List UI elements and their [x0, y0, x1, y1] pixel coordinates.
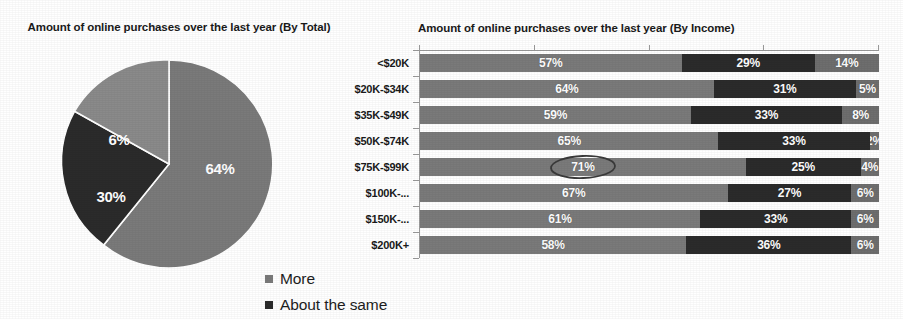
- bar-segment-about-the-same[interactable]: 33%: [691, 106, 842, 124]
- bar-row[interactable]: $200K+58%36%6%: [360, 232, 903, 258]
- bar-segment-less[interactable]: 5%: [856, 80, 879, 98]
- bar-segment-less[interactable]: 14%: [815, 54, 879, 72]
- category-label: <$20K: [360, 50, 414, 76]
- bar-segment-less[interactable]: 4%: [861, 158, 879, 176]
- square-swatch-icon: [265, 301, 273, 309]
- bar-segment-value: 36%: [757, 238, 780, 252]
- pie-slice-label-less: 6%: [108, 131, 129, 148]
- stacked-bar[interactable]: 61%33%6%: [420, 210, 879, 228]
- bar-segment-about-the-same[interactable]: 36%: [686, 236, 851, 254]
- bar-segment-value: 8%: [852, 108, 869, 122]
- bar-segment-about-the-same[interactable]: 27%: [728, 184, 852, 202]
- bar-segment-value: 67%: [562, 186, 585, 200]
- bar-segment-value: 33%: [782, 134, 805, 148]
- bar-segment-less[interactable]: 6%: [851, 184, 879, 202]
- bar-segment-value: 61%: [548, 212, 571, 226]
- bar-row[interactable]: $75K-$99K71%25%4%: [360, 154, 903, 180]
- category-label: $75K-$99K: [360, 154, 414, 180]
- bar-segment-less[interactable]: 6%: [851, 236, 879, 254]
- stacked-bar[interactable]: 71%25%4%: [420, 158, 879, 176]
- pie-slice-label-about-the-same: 30%: [96, 188, 125, 205]
- bar-segment-more[interactable]: 58%: [420, 236, 686, 254]
- bar-segment-about-the-same[interactable]: 33%: [700, 210, 851, 228]
- legend-label-more: More: [280, 270, 315, 288]
- bar-row[interactable]: $20K-$34K64%31%5%: [360, 76, 903, 102]
- bar-chart-plot-area: <$20K57%29%14%$20K-$34K64%31%5%$35K-$49K…: [360, 44, 903, 264]
- y-axis-tick: [413, 258, 419, 259]
- bar-segment-value: 6%: [857, 238, 874, 252]
- bar-segment-about-the-same[interactable]: 31%: [714, 80, 856, 98]
- pie-svg: 64% 30% 6%: [48, 60, 290, 268]
- bar-chart-panel: Amount of online purchases over the last…: [360, 0, 903, 319]
- bar-row[interactable]: <$20K57%29%14%: [360, 50, 903, 76]
- square-swatch-icon: [265, 275, 273, 283]
- stacked-bar[interactable]: 67%27%6%: [420, 184, 879, 202]
- bar-row[interactable]: $150K-...61%33%6%: [360, 206, 903, 232]
- bar-segment-value: 33%: [755, 108, 778, 122]
- bar-segment-value: 27%: [778, 186, 801, 200]
- bar-chart-title: Amount of online purchases over the last…: [418, 22, 734, 34]
- bar-segment-value: 25%: [792, 160, 815, 174]
- category-label: $100K-...: [360, 180, 414, 206]
- bar-segment-value: 31%: [773, 82, 796, 96]
- bar-segment-less[interactable]: 8%: [842, 106, 879, 124]
- bar-segment-value: 58%: [541, 238, 564, 252]
- bar-segment-value: 6%: [857, 212, 874, 226]
- category-label: $20K-$34K: [360, 76, 414, 102]
- stacked-bar[interactable]: 59%33%8%: [420, 106, 879, 124]
- bar-segment-value: 5%: [859, 82, 876, 96]
- bar-segment-value: 71%: [571, 160, 594, 174]
- bar-row[interactable]: $35K-$49K59%33%8%: [360, 102, 903, 128]
- bar-segment-more[interactable]: 59%: [420, 106, 691, 124]
- bar-row[interactable]: $50K-$74K65%33%2%: [360, 128, 903, 154]
- bar-segment-about-the-same[interactable]: 29%: [682, 54, 815, 72]
- bar-segment-more[interactable]: 57%: [420, 54, 682, 72]
- bar-segment-about-the-same[interactable]: 33%: [718, 132, 869, 150]
- bar-segment-more[interactable]: 61%: [420, 210, 700, 228]
- pie-chart-title: Amount of online purchases over the last…: [14, 20, 344, 35]
- bar-segment-more[interactable]: 65%: [420, 132, 718, 150]
- bar-segment-more[interactable]: 64%: [420, 80, 714, 98]
- bar-segment-value: 64%: [555, 82, 578, 96]
- bar-segment-value: 65%: [557, 134, 580, 148]
- stacked-bar[interactable]: 64%31%5%: [420, 80, 879, 98]
- category-label: $50K-$74K: [360, 128, 414, 154]
- stacked-bar[interactable]: 58%36%6%: [420, 236, 879, 254]
- category-label: $200K+: [360, 232, 414, 258]
- bar-segment-value: 57%: [539, 56, 562, 70]
- category-label: $35K-$49K: [360, 102, 414, 128]
- bar-segment-value: 6%: [857, 186, 874, 200]
- pie-slice-label-more: 64%: [205, 160, 234, 177]
- stacked-bar[interactable]: 65%33%2%: [420, 132, 879, 150]
- stacked-bar[interactable]: 57%29%14%: [420, 54, 879, 72]
- bar-segment-less[interactable]: 2%: [870, 132, 879, 150]
- bar-segment-value: 4%: [861, 160, 878, 174]
- pie-slices: [62, 60, 273, 268]
- bar-segment-more[interactable]: 67%: [420, 184, 728, 202]
- category-label: $150K-...: [360, 206, 414, 232]
- bar-segment-value: 29%: [736, 56, 759, 70]
- bar-segment-about-the-same[interactable]: 25%: [746, 158, 861, 176]
- bar-segment-more[interactable]: 71%: [420, 158, 746, 176]
- bar-segment-value: 33%: [764, 212, 787, 226]
- bar-segment-value: 14%: [835, 56, 858, 70]
- bar-segment-value: 59%: [544, 108, 567, 122]
- bar-row[interactable]: $100K-...67%27%6%: [360, 180, 903, 206]
- bar-segment-value: 2%: [870, 134, 879, 148]
- bar-segment-less[interactable]: 6%: [851, 210, 879, 228]
- pie-chart-figure: 64% 30% 6%: [48, 60, 290, 268]
